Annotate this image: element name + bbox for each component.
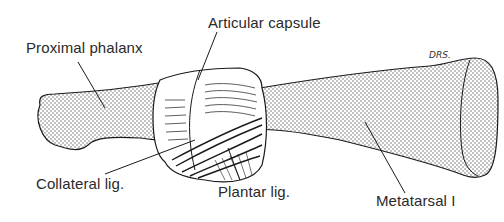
joint-capsule: [153, 68, 266, 182]
label-metatarsal: Metatarsal I: [376, 192, 456, 209]
label-plantar-lig: Plantar lig.: [218, 183, 290, 200]
label-collateral-lig: Collateral lig.: [36, 175, 124, 192]
label-proximal-phalanx: Proximal phalanx: [26, 39, 143, 56]
metatarsal-bone: [255, 58, 498, 177]
label-articular-capsule: Articular capsule: [208, 14, 321, 31]
artist-signature: DRS.: [429, 50, 451, 60]
